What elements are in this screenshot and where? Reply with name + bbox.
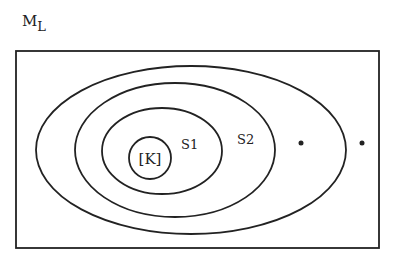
core-label: [K]: [139, 150, 162, 168]
s1-label: S1: [181, 137, 198, 152]
title-ml: ML: [22, 12, 46, 34]
ellipsis-dot: [299, 141, 304, 146]
title-subscript: L: [37, 19, 46, 34]
ellipsis-dot: [360, 141, 365, 146]
s1-ellipse: [102, 108, 222, 194]
s2-ellipse: [75, 83, 275, 217]
s2-label: S2: [237, 132, 254, 147]
nested-sets-diagram: ML [K] S1 S2: [0, 0, 396, 258]
title-main: M: [22, 12, 37, 30]
